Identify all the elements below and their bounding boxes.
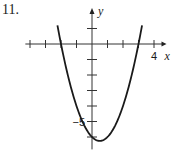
chart: 4−5xy — [0, 0, 172, 156]
y-axis-label: y — [97, 4, 104, 18]
parabola-curve — [57, 25, 142, 141]
x-tick-label: 4 — [151, 50, 157, 62]
x-axis-label: x — [164, 49, 171, 63]
x-axis-arrow — [162, 42, 167, 47]
y-axis-arrow — [90, 8, 95, 14]
